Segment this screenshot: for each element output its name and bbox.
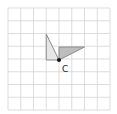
point-c — [57, 58, 61, 62]
grid-diagram: C — [0, 0, 117, 114]
triangle-a — [46, 34, 59, 60]
point-c-label: C — [62, 64, 68, 74]
